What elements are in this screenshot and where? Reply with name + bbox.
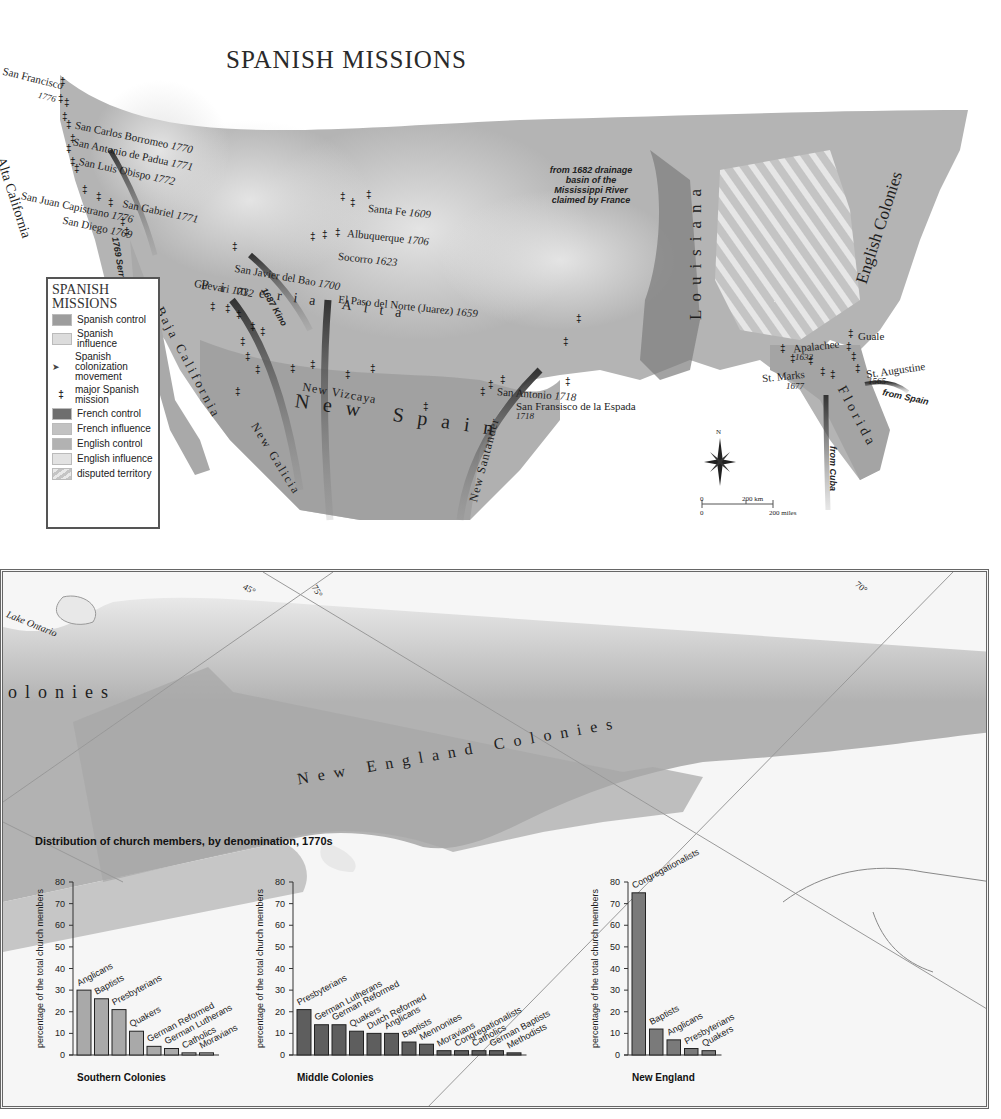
svg-text:‡: ‡: [851, 351, 857, 362]
legend-swatch: [52, 408, 72, 420]
svg-text:‡: ‡: [310, 231, 316, 242]
svg-text:‡: ‡: [820, 366, 826, 377]
legend-label: French control: [77, 409, 141, 419]
legend-item: ➤Spanish colonization movement: [52, 352, 154, 382]
y-tick-label: 30: [275, 985, 285, 995]
svg-text:‡: ‡: [260, 326, 266, 337]
svg-text:‡: ‡: [370, 363, 376, 374]
chart-southern-colonies: percentage of the total church members01…: [31, 872, 281, 1096]
svg-text:‡: ‡: [58, 93, 64, 104]
svg-text:‡: ‡: [240, 336, 246, 347]
y-tick-label: 80: [275, 877, 285, 887]
svg-text:‡: ‡: [780, 343, 786, 354]
bar: [702, 1051, 716, 1055]
svg-text:‡: ‡: [210, 301, 216, 312]
svg-text:‡: ‡: [225, 303, 231, 314]
scale-zero-km: 0: [700, 495, 704, 503]
svg-text:‡: ‡: [335, 227, 341, 238]
bar: [420, 1044, 434, 1055]
svg-text:‡: ‡: [235, 386, 241, 397]
bar: [182, 1053, 196, 1055]
svg-text:‡: ‡: [345, 369, 351, 380]
y-axis-label: percentage of the total church members: [255, 888, 265, 1048]
map-legend: SPANISHMISSIONS Spanish controlSpanish i…: [46, 277, 160, 529]
scale-km: 200 km: [742, 495, 763, 503]
legend-label: Spanish colonization movement: [75, 352, 154, 382]
legend-item: Spanish influence: [52, 329, 154, 349]
bar: [130, 1031, 144, 1055]
svg-text:‡: ‡: [66, 119, 72, 130]
bar: [507, 1053, 521, 1055]
svg-text:‡: ‡: [565, 376, 571, 387]
colonies-map: Lake Ontario olonies New England Colonie…: [0, 569, 989, 1109]
label-st-marks-year: 1677: [786, 381, 804, 391]
legend-item: Spanish control: [52, 314, 154, 326]
svg-text:‡: ‡: [310, 359, 316, 370]
bar-category-label: Quakers: [128, 1004, 163, 1029]
y-tick-label: 30: [610, 985, 620, 995]
y-tick-label: 80: [610, 877, 620, 887]
label-colonies-partial: olonies: [8, 682, 116, 703]
legend-label: major Spanish mission: [75, 385, 154, 405]
mission-cross-icon: ‡: [52, 390, 70, 400]
svg-text:‡: ‡: [64, 97, 70, 108]
bar: [667, 1040, 681, 1055]
svg-text:‡: ‡: [563, 336, 569, 347]
y-tick-label: 50: [610, 942, 620, 952]
bar: [490, 1051, 504, 1055]
bar: [350, 1031, 364, 1055]
legend-label: Spanish control: [77, 315, 146, 325]
y-tick-label: 0: [60, 1050, 65, 1060]
svg-text:‡: ‡: [255, 364, 261, 375]
y-tick-label: 60: [55, 920, 65, 930]
legend-item: ‡major Spanish mission: [52, 385, 154, 405]
bar: [455, 1051, 469, 1055]
y-tick-label: 70: [55, 899, 65, 909]
legend-item: French influence: [52, 423, 154, 435]
svg-text:‡: ‡: [232, 241, 238, 252]
bar: [165, 1049, 179, 1055]
y-tick-label: 0: [615, 1050, 620, 1060]
svg-text:‡: ‡: [66, 143, 72, 154]
y-axis-label: percentage of the total church members: [590, 888, 600, 1048]
y-tick-label: 20: [610, 1007, 620, 1017]
y-tick-label: 50: [275, 942, 285, 952]
svg-text:‡: ‡: [576, 313, 582, 324]
legend-item: English control: [52, 438, 154, 450]
legend-swatch: [52, 453, 72, 465]
svg-text:‡: ‡: [350, 197, 356, 208]
spanish-missions-map: ‡‡‡ ‡‡‡ ‡‡‡ ‡‡‡ ‡‡‡ ‡‡‡ ‡‡‡ ‡‡‡ ‡‡‡ ‡‡‡ …: [0, 0, 1001, 540]
mississippi-annotation: from 1682 drainage basin of the Mississi…: [545, 165, 637, 205]
bar: [437, 1051, 451, 1055]
bar: [367, 1033, 381, 1055]
svg-text:‡: ‡: [108, 197, 114, 208]
legend-item: disputed territory: [52, 468, 154, 480]
y-tick-label: 10: [275, 1028, 285, 1038]
scale-zero-miles: 0: [700, 509, 704, 517]
bar: [402, 1042, 416, 1055]
bar: [632, 893, 646, 1055]
svg-text:‡: ‡: [96, 191, 102, 202]
svg-text:‡: ‡: [340, 191, 346, 202]
region-louisiana: Louisiana: [686, 181, 706, 320]
legend-label: Spanish influence: [77, 329, 154, 349]
label-st-augustine-year: 1565: [868, 376, 886, 386]
bar: [315, 1025, 329, 1055]
y-tick-label: 70: [610, 899, 620, 909]
arrow-icon: ➤: [52, 362, 70, 372]
label-apalachee-year: 1632: [795, 352, 813, 362]
bar: [200, 1053, 214, 1055]
bar: [147, 1046, 161, 1055]
chart-middle-colonies: percentage of the total church members01…: [261, 872, 589, 1096]
legend-label: English control: [77, 439, 143, 449]
chart-section-title: Distribution of church members, by denom…: [35, 835, 333, 847]
svg-text:‡: ‡: [290, 363, 296, 374]
bar: [297, 1010, 311, 1055]
svg-text:‡: ‡: [250, 321, 256, 332]
label-guale: Guale: [858, 330, 884, 342]
y-tick-label: 10: [610, 1028, 620, 1038]
y-tick-label: 0: [280, 1050, 285, 1060]
svg-text:‡: ‡: [848, 328, 854, 339]
legend-item: French control: [52, 408, 154, 420]
legend-swatch: [52, 314, 72, 326]
